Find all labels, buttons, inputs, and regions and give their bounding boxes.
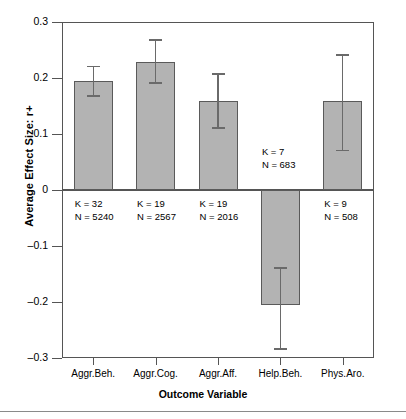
x-tick-label-aggr-cog: Aggr.Cog. <box>133 368 177 379</box>
error-bar-help-beh <box>280 268 281 349</box>
y-tick-label-0: 0.3 <box>2 15 48 27</box>
annotation-n: N = 683 <box>262 158 296 171</box>
x-tick-label-aggr-aff: Aggr.Aff. <box>199 368 237 379</box>
error-cap-bottom <box>336 150 349 151</box>
annotation-n: N = 2016 <box>200 210 239 223</box>
x-tick-mark <box>156 358 157 365</box>
y-tick-label-5: –0.2 <box>2 295 48 307</box>
annotation-aggr-cog: K = 19 N = 2567 <box>137 197 176 223</box>
annotation-n: N = 508 <box>324 210 358 223</box>
error-cap-bottom <box>87 95 100 96</box>
annotation-k: K = 19 <box>137 197 176 210</box>
y-tick-mark <box>52 246 62 247</box>
chart-root: Average Effect Size: r+ 0.3 0.2 0.1 0 –0… <box>0 0 406 419</box>
y-tick-label-4: –0.1 <box>2 239 48 251</box>
error-cap-bottom <box>149 82 162 83</box>
error-cap-top <box>87 66 100 67</box>
error-cap-top <box>212 73 225 74</box>
error-cap-top <box>336 54 349 55</box>
x-tick-mark <box>93 358 94 365</box>
bar-aggr-beh <box>74 81 113 190</box>
error-bar-aggr-aff <box>217 74 218 128</box>
y-axis-title: Average Effect Size: r+ <box>23 71 35 261</box>
annotation-aggr-beh: K = 32 N = 5240 <box>75 197 114 223</box>
error-bar-aggr-cog <box>155 40 156 83</box>
x-tick-label-aggr-beh: Aggr.Beh. <box>71 368 115 379</box>
error-cap-top <box>274 267 287 268</box>
x-tick-mark <box>343 358 344 365</box>
x-tick-mark <box>280 358 281 365</box>
y-tick-mark <box>52 190 62 191</box>
y-tick-mark <box>52 78 62 79</box>
y-tick-mark <box>52 358 62 359</box>
y-tick-label-1: 0.2 <box>2 71 48 83</box>
annotation-k: K = 32 <box>75 197 114 210</box>
annotation-k: K = 7 <box>262 145 296 158</box>
bottom-divider <box>0 411 406 412</box>
y-tick-label-2: 0.1 <box>2 127 48 139</box>
annotation-k: K = 9 <box>324 197 358 210</box>
x-axis-title: Outcome Variable <box>0 388 406 400</box>
error-cap-bottom <box>274 348 287 349</box>
error-bar-phys-aro <box>342 55 343 150</box>
error-cap-bottom <box>212 127 225 128</box>
annotation-n: N = 5240 <box>75 210 114 223</box>
annotation-k: K = 19 <box>200 197 239 210</box>
annotation-aggr-aff: K = 19 N = 2016 <box>200 197 239 223</box>
x-tick-label-phys-aro: Phys.Aro. <box>321 368 364 379</box>
y-tick-label-3: 0 <box>2 183 48 195</box>
y-tick-mark <box>52 134 62 135</box>
annotation-phys-aro: K = 9 N = 508 <box>324 197 358 223</box>
error-cap-top <box>149 39 162 40</box>
annotation-n: N = 2567 <box>137 210 176 223</box>
y-tick-label-6: –0.3 <box>2 351 48 363</box>
y-tick-mark <box>52 22 62 23</box>
x-tick-label-help-beh: Help.Beh. <box>258 368 302 379</box>
y-tick-mark <box>52 302 62 303</box>
annotation-help-beh: K = 7 N = 683 <box>262 145 296 171</box>
x-tick-mark <box>218 358 219 365</box>
error-bar-aggr-beh <box>93 66 94 96</box>
